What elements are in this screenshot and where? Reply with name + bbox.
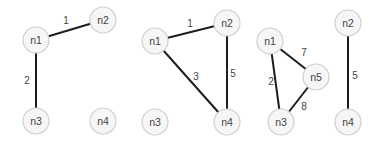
node-label: n5 (310, 71, 322, 83)
node-label: n1 (30, 34, 42, 46)
node-n3: n3 (23, 108, 49, 134)
graph-2: 135n1n2n3n4 (142, 10, 240, 135)
edge-weight-label: 1 (63, 15, 69, 26)
node-label: n4 (342, 116, 354, 128)
node-n1: n1 (142, 28, 168, 54)
node-label: n3 (30, 115, 42, 127)
node-label: n4 (221, 116, 233, 128)
node-n3: n3 (142, 109, 168, 135)
node-label: n2 (97, 14, 109, 26)
node-n1: n1 (257, 28, 283, 54)
edge-weight-label: 5 (352, 70, 358, 81)
node-label: n3 (149, 116, 161, 128)
node-n2: n2 (335, 10, 361, 36)
edge-weight-label: 8 (301, 101, 307, 112)
node-n4: n4 (214, 109, 240, 135)
node-n4: n4 (335, 109, 361, 135)
node-label: n1 (149, 35, 161, 47)
graph-3: 728n1n5n3 (257, 28, 329, 135)
node-n1: n1 (23, 27, 49, 53)
node-label: n2 (342, 17, 354, 29)
node-n4: n4 (90, 108, 116, 134)
node-label: n2 (221, 17, 233, 29)
edge-n1-n4 (155, 41, 227, 122)
edge-weight-label: 2 (268, 76, 274, 87)
node-n2: n2 (214, 10, 240, 36)
node-label: n3 (275, 116, 287, 128)
edge-weight-label: 1 (187, 18, 193, 29)
graph-4: 5n2n4 (335, 10, 361, 135)
edge-weight-label: 5 (230, 68, 236, 79)
node-label: n4 (97, 115, 109, 127)
node-n2: n2 (90, 7, 116, 33)
edge-weight-label: 7 (301, 47, 307, 58)
node-n5: n5 (303, 64, 329, 90)
node-label: n1 (264, 35, 276, 47)
edge-weight-label: 3 (193, 71, 199, 82)
edge-weight-label: 2 (24, 75, 30, 86)
graph-diagram-canvas: 12n1n2n3n4135n1n2n3n4728n1n5n35n2n4 (0, 0, 382, 144)
graph-1: 12n1n2n3n4 (23, 7, 116, 134)
node-n3: n3 (268, 109, 294, 135)
